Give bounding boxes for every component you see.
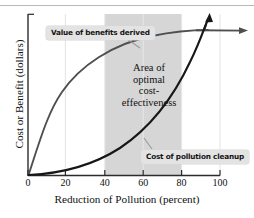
cost-arrow-head <box>205 13 213 23</box>
x-axis-title: Reduction of Pollution (percent) <box>0 193 254 205</box>
y-axis-title: Cost or Benefit (dollars) <box>13 9 25 179</box>
area-annotation-line-4: effectiveness <box>112 97 186 109</box>
x-tick-label-40: 40 <box>100 177 110 188</box>
figure-chart-cost-benefit: Value of benefits derived Cost of pollut… <box>0 0 254 218</box>
x-tick-label-100: 100 <box>213 177 228 188</box>
area-annotation-line-2: optimal <box>112 74 186 86</box>
x-tick-label-60: 60 <box>138 177 148 188</box>
benefits-callout-label: Value of benefits derived <box>46 26 155 40</box>
x-tick-label-80: 80 <box>177 177 187 188</box>
cost-callout-label: Cost of pollution cleanup <box>141 150 249 164</box>
x-tick-label-20: 20 <box>60 177 70 188</box>
benefits-arrow-head <box>239 27 248 34</box>
area-annotation-line-1: Area of <box>112 62 186 74</box>
plot-area: Value of benefits derived Cost of pollut… <box>0 0 254 218</box>
optimal-area-annotation: Area of optimal cost- effectiveness <box>112 62 186 108</box>
area-annotation-line-3: cost- <box>112 85 186 97</box>
x-tick-label-0: 0 <box>26 177 31 188</box>
